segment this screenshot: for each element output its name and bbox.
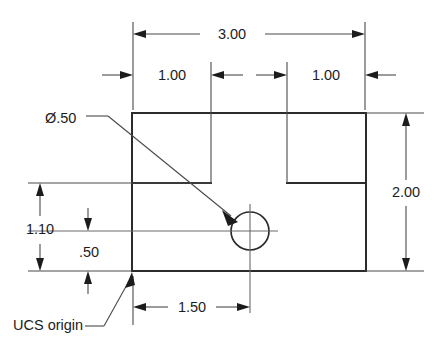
- dim-label-overall-width: 3.00: [218, 26, 246, 42]
- part-geometry: [132, 113, 366, 271]
- dimension-right-offset: 1.00: [256, 62, 396, 183]
- hole-center-lines: [28, 204, 278, 313]
- annotation-label-hole-diameter: Ø.50: [45, 110, 76, 126]
- engineering-drawing-canvas: 3.00 1.00 1.00: [0, 0, 442, 355]
- dim-label-overall-height: 2.00: [392, 184, 420, 200]
- arrow-head-lower-offset-top: [84, 218, 92, 231]
- arrow-head-overall-right: [352, 30, 365, 38]
- arrow-head-height-top: [402, 113, 410, 126]
- dim-label-hole-height: 1.10: [26, 221, 54, 237]
- arrow-head-right-offset-left: [274, 71, 287, 79]
- plate-outline: [132, 113, 366, 271]
- dimension-hole-height: 1.10: [26, 183, 212, 271]
- dimension-left-offset: 1.00: [102, 62, 243, 183]
- drawing-svg: 3.00 1.00 1.00: [0, 0, 442, 355]
- leader-line-hole-diameter: [108, 116, 231, 216]
- arrow-head-left-offset-right: [120, 71, 133, 79]
- dim-label-hole-x-position: 1.50: [178, 299, 206, 315]
- arrow-head-right-offset-right: [365, 71, 378, 79]
- annotation-label-ucs-origin: UCS origin: [13, 317, 83, 333]
- arrow-head-left-offset-left: [211, 71, 224, 79]
- arrow-head-hole-height-top: [36, 183, 44, 196]
- dim-label-left-offset: 1.00: [158, 67, 186, 83]
- arrow-head-overall-left: [133, 30, 146, 38]
- arrow-head-height-bottom: [402, 258, 410, 271]
- arrow-head-hole-x-left: [133, 303, 146, 311]
- dimension-overall-height: 2.00: [366, 113, 424, 271]
- dim-label-right-offset: 1.00: [312, 67, 340, 83]
- dim-label-lower-offset: .50: [79, 244, 99, 260]
- arrow-head-hole-height-bottom: [36, 258, 44, 271]
- annotation-ucs-origin: UCS origin: [13, 272, 135, 333]
- arrow-head-hole-x-right: [237, 303, 250, 311]
- dimension-lower-offset: .50: [79, 208, 99, 294]
- dimension-hole-x-position: 1.50: [133, 276, 250, 325]
- annotation-hole-diameter: Ø.50: [45, 110, 238, 226]
- arrow-head-lower-offset-bottom: [84, 271, 92, 284]
